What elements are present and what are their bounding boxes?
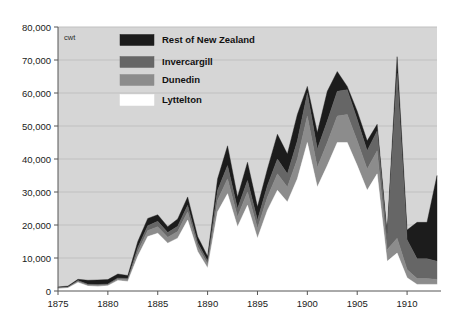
stacked-area-chart: 010,00020,00030,00040,00050,00060,00070,…	[0, 0, 464, 328]
legend-label-dunedin: Dunedin	[162, 74, 200, 85]
legend-swatch-invercargill	[120, 57, 154, 68]
y-tick-label: 10,000	[22, 253, 51, 264]
x-tick-label: 1905	[347, 298, 368, 309]
legend-label-rest-of-new-zealand: Rest of New Zealand	[162, 34, 255, 45]
x-tick-label: 1895	[247, 298, 268, 309]
y-tick-label: 60,000	[22, 88, 51, 99]
x-tick-label: 1890	[197, 298, 218, 309]
y-tick-label: 50,000	[22, 121, 51, 132]
chart-container: 010,00020,00030,00040,00050,00060,00070,…	[0, 0, 464, 328]
legend-label-invercargill: Invercargill	[162, 56, 213, 67]
x-tick-label: 1900	[297, 298, 318, 309]
y-tick-label: 30,000	[22, 187, 51, 198]
legend-swatch-rest-of-new-zealand	[120, 35, 154, 46]
legend-swatch-lyttelton	[120, 95, 154, 106]
x-tick-label: 1875	[47, 298, 68, 309]
x-tick-label: 1910	[397, 298, 418, 309]
y-axis-unit-label: cwt	[64, 33, 76, 42]
y-tick-label: 0	[46, 286, 51, 297]
x-tick-label: 1880	[97, 298, 118, 309]
y-tick-label: 20,000	[22, 220, 51, 231]
y-tick-label: 70,000	[22, 55, 51, 66]
legend-swatch-dunedin	[120, 75, 154, 86]
x-tick-label: 1885	[147, 298, 168, 309]
legend-label-lyttelton: Lyttelton	[162, 94, 202, 105]
y-tick-label: 40,000	[22, 154, 51, 165]
y-tick-label: 80,000	[22, 22, 51, 33]
